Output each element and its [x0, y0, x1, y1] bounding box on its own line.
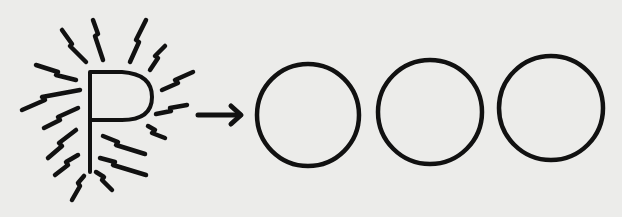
circles	[257, 56, 603, 166]
circle-3	[499, 56, 603, 160]
circle-2	[378, 60, 482, 164]
arrow-icon	[198, 106, 241, 124]
circle-1	[257, 64, 359, 166]
lightning-marks	[22, 20, 193, 200]
diagram-canvas	[0, 0, 622, 217]
